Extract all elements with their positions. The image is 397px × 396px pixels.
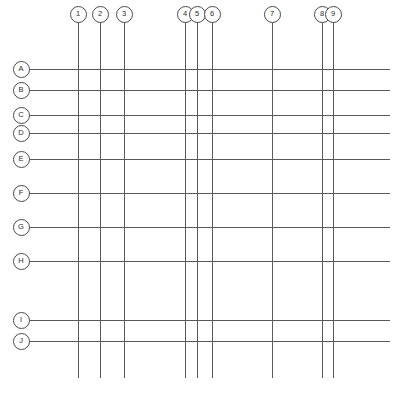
column-gridline-7 [272,22,273,378]
drawing-canvas: 123456789 ABCDEFGHIJ [0,0,397,396]
column-gridline-9 [333,22,334,378]
row-gridline-G [28,227,390,228]
column-gridline-2 [100,22,101,378]
row-gridline-B [28,90,390,91]
column-gridline-8 [322,22,323,378]
column-bubble-7[interactable]: 7 [264,6,281,23]
row-bubble-B[interactable]: B [13,82,30,99]
row-gridline-A [28,69,390,70]
column-gridline-6 [212,22,213,378]
column-bubble-2[interactable]: 2 [92,6,109,23]
row-gridline-D [28,133,390,134]
row-bubble-J[interactable]: J [13,333,30,350]
column-bubble-1[interactable]: 1 [70,6,87,23]
row-bubble-C[interactable]: C [13,107,30,124]
column-gridline-1 [78,22,79,378]
row-gridline-I [28,320,390,321]
column-bubble-3[interactable]: 3 [116,6,133,23]
row-gridline-F [28,193,390,194]
column-gridline-5 [197,22,198,378]
row-gridline-J [28,341,390,342]
row-bubble-I[interactable]: I [13,312,30,329]
column-bubble-5[interactable]: 5 [189,6,206,23]
column-bubble-9[interactable]: 9 [325,6,342,23]
row-gridline-C [28,115,390,116]
column-bubble-6[interactable]: 6 [204,6,221,23]
row-bubble-A[interactable]: A [13,61,30,78]
row-gridline-H [28,261,390,262]
row-bubble-E[interactable]: E [13,151,30,168]
row-bubble-H[interactable]: H [13,253,30,270]
row-bubble-F[interactable]: F [13,185,30,202]
row-gridline-E [28,159,390,160]
column-gridline-4 [185,22,186,378]
row-bubble-D[interactable]: D [13,125,30,142]
row-bubble-G[interactable]: G [13,219,30,236]
column-gridline-3 [124,22,125,378]
